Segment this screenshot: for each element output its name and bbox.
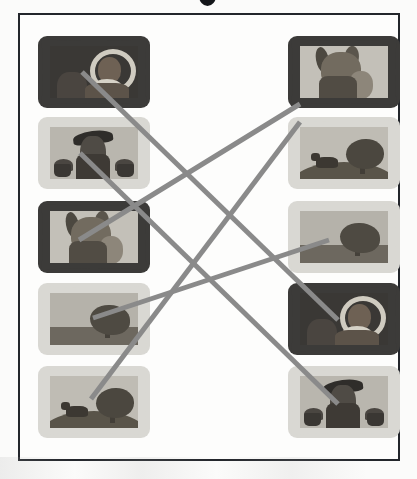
picture-canvas-cow-and-tree-hill xyxy=(50,376,138,428)
scan-artifact xyxy=(0,457,417,479)
frame-edge-right xyxy=(395,33,404,111)
cut-off-title-glyph xyxy=(199,0,216,6)
list-item[interactable] xyxy=(288,366,400,438)
picture-canvas-cow-and-tree-hill xyxy=(300,127,388,179)
frame-edge-right xyxy=(395,198,404,276)
picture-canvas-bush-landscape xyxy=(300,211,388,263)
list-item[interactable] xyxy=(38,36,150,108)
list-item[interactable] xyxy=(38,283,150,355)
picture-canvas-bush-landscape xyxy=(50,293,138,345)
picture-canvas-horned-figure xyxy=(300,46,388,98)
list-item[interactable] xyxy=(38,201,150,273)
list-item[interactable] xyxy=(38,366,150,438)
frame-edge-right xyxy=(395,114,404,192)
list-item[interactable] xyxy=(288,117,400,189)
list-item[interactable] xyxy=(288,283,400,355)
picture-canvas-haloed-saint xyxy=(300,293,388,345)
picture-canvas-haloed-saint xyxy=(50,46,138,98)
list-item[interactable] xyxy=(288,36,400,108)
picture-canvas-figure-with-flowers xyxy=(50,127,138,179)
picture-canvas-figure-with-flowers xyxy=(300,376,388,428)
list-item[interactable] xyxy=(288,201,400,273)
picture-canvas-horned-figure xyxy=(50,211,138,263)
frame-edge-right xyxy=(395,280,404,358)
list-item[interactable] xyxy=(38,117,150,189)
worksheet-page xyxy=(0,0,417,479)
frame-edge-right xyxy=(395,363,404,441)
